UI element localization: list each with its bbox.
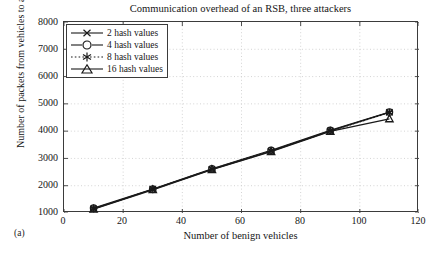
x-tick-label: 100 (339, 216, 379, 226)
chart-legend: 2 hash values 4 hash values 8 hash value… (66, 24, 168, 78)
y-tick-label: 7000 (6, 44, 58, 54)
legend-item-0: 2 hash values (70, 27, 163, 39)
legend-label: 2 hash values (104, 27, 158, 39)
legend-item-2: 8 hash values (70, 51, 163, 63)
x-tick-label: 20 (102, 216, 142, 226)
legend-label: 8 hash values (104, 51, 158, 63)
legend-label: 16 hash values (104, 63, 163, 75)
y-tick-label: 2000 (6, 180, 58, 190)
y-tick-label: 3000 (6, 153, 58, 163)
y-tick-label: 4000 (6, 125, 58, 135)
subfigure-label: (a) (14, 228, 25, 238)
figure-panel: Communication overhead of an RSB, three … (0, 0, 435, 257)
legend-item-1: 4 hash values (70, 39, 163, 51)
x-axis-tick-labels: 0 20 40 60 80 100 120 (63, 216, 418, 230)
y-tick-label: 6000 (6, 71, 58, 81)
chart-title: Communication overhead of an RSB, three … (63, 3, 418, 15)
y-tick-label: 5000 (6, 98, 58, 108)
legend-marker-x-cross-icon (70, 27, 104, 39)
legend-marker-circle-icon (70, 39, 104, 51)
x-tick-label: 40 (161, 216, 201, 226)
x-axis-title: Number of benign vehicles (63, 230, 418, 241)
legend-label: 4 hash values (104, 39, 158, 51)
y-tick-label: 8000 (6, 17, 58, 27)
legend-item-3: 16 hash values (70, 63, 163, 75)
x-tick-label: 60 (220, 216, 260, 226)
data-series (90, 115, 393, 212)
legend-marker-triangle-icon (70, 63, 104, 75)
x-tick-label: 0 (43, 216, 83, 226)
x-tick-label: 120 (398, 216, 435, 226)
legend-marker-asterisk-icon (70, 51, 104, 63)
x-tick-label: 80 (280, 216, 320, 226)
